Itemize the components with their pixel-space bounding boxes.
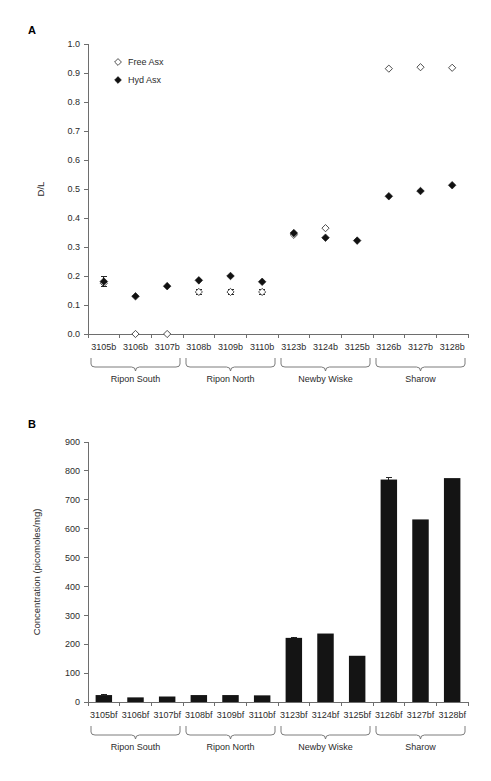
bar: [191, 695, 207, 702]
x-tick-label: 3123bf: [280, 710, 308, 720]
panel-a-chart: 0.00.10.20.30.40.50.60.70.80.91.0D/LFree…: [0, 0, 491, 400]
y-tick-label: 0.5: [67, 184, 80, 194]
y-tick-label: 400: [65, 582, 80, 592]
y-tick-label: 100: [65, 668, 80, 678]
y-tick-label: 0.9: [67, 68, 80, 78]
data-point-free-asx: [132, 330, 139, 337]
x-tick-label: 3124b: [313, 342, 338, 352]
x-tick-label: 3106b: [123, 342, 148, 352]
data-point-free-asx: [385, 65, 392, 72]
bar: [96, 695, 112, 702]
x-tick-label: 3105b: [91, 342, 116, 352]
bar: [381, 480, 397, 702]
panel-b-chart: 0100200300400500600700800900Concentratio…: [0, 400, 491, 781]
y-tick-label: 0.6: [67, 155, 80, 165]
x-tick-label: 3107b: [155, 342, 180, 352]
legend-filled-diamond-icon: [115, 77, 122, 84]
group-bracket: [281, 358, 370, 371]
bar: [349, 656, 365, 702]
group-label: Ripon South: [111, 374, 161, 384]
x-tick-label: 3126b: [376, 342, 401, 352]
y-tick-label: 800: [65, 466, 80, 476]
y-tick-label: 500: [65, 553, 80, 563]
x-tick-label: 3126bf: [375, 710, 403, 720]
group-bracket: [186, 726, 275, 739]
x-tick-label: 3125bf: [343, 710, 371, 720]
x-tick-label: 3127b: [408, 342, 433, 352]
y-tick-label: 1.0: [67, 39, 80, 49]
bar: [444, 478, 460, 702]
x-tick-label: 3107bf: [153, 710, 181, 720]
group-label: Ripon South: [111, 742, 161, 752]
group-bracket: [91, 358, 180, 371]
data-point-hyd-asx: [258, 278, 266, 286]
group-bracket: [376, 726, 465, 739]
y-tick-label: 0.7: [67, 126, 80, 136]
data-point-hyd-asx: [195, 277, 203, 285]
data-point-hyd-asx: [353, 237, 361, 245]
panel-b: B 0100200300400500600700800900Concentrat…: [0, 400, 491, 781]
panel-a-letter: A: [28, 24, 36, 36]
group-label: Ripon North: [206, 742, 254, 752]
bar: [222, 695, 238, 702]
data-point-free-asx: [449, 64, 456, 71]
data-point-hyd-asx: [227, 272, 235, 280]
data-point-hyd-asx: [385, 192, 393, 200]
y-axis-title: Concentration (picomoles/mg): [31, 509, 42, 636]
data-point-free-asx: [322, 225, 329, 232]
data-point-free-asx: [164, 330, 171, 337]
x-tick-label: 3108bf: [185, 710, 213, 720]
y-tick-label: 200: [65, 639, 80, 649]
bar: [127, 697, 143, 702]
group-label: Newby Wiske: [298, 742, 353, 752]
x-tick-label: 3108b: [186, 342, 211, 352]
x-tick-label: 3109bf: [217, 710, 245, 720]
x-tick-label: 3127bf: [407, 710, 435, 720]
y-tick-label: 0.2: [67, 271, 80, 281]
y-tick-label: 0.8: [67, 97, 80, 107]
group-bracket: [91, 726, 180, 739]
x-tick-label: 3110b: [250, 342, 274, 352]
x-tick-label: 3124bf: [312, 710, 340, 720]
data-point-hyd-asx: [132, 293, 140, 301]
data-point-hyd-asx: [417, 187, 425, 195]
y-tick-label: 900: [65, 437, 80, 447]
legend-label-hyd-asx: Hyd Asx: [128, 75, 162, 85]
y-axis-title: D/L: [35, 182, 46, 197]
y-tick-label: 0.3: [67, 242, 80, 252]
legend-label-free-asx: Free Asx: [128, 57, 164, 67]
panel-b-letter: B: [28, 418, 36, 430]
group-bracket: [281, 726, 370, 739]
x-tick-label: 3125b: [345, 342, 370, 352]
figure-container: A 0.00.10.20.30.40.50.60.70.80.91.0D/LFr…: [0, 0, 491, 781]
bar: [286, 638, 302, 702]
data-point-hyd-asx: [448, 181, 456, 189]
group-label: Sharow: [405, 374, 436, 384]
group-label: Ripon North: [206, 374, 254, 384]
bar: [412, 519, 428, 702]
x-tick-label: 3123b: [281, 342, 306, 352]
group-label: Sharow: [405, 742, 436, 752]
y-tick-label: 600: [65, 524, 80, 534]
y-tick-label: 0.1: [67, 300, 80, 310]
x-tick-label: 3110bf: [249, 710, 276, 720]
y-tick-label: 0.4: [67, 213, 80, 223]
x-tick-label: 3109b: [218, 342, 243, 352]
data-point-hyd-asx: [322, 234, 330, 242]
x-tick-label: 3106bf: [122, 710, 150, 720]
x-tick-label: 3128b: [440, 342, 465, 352]
y-tick-label: 0.0: [67, 329, 80, 339]
bar: [317, 634, 333, 702]
group-bracket: [186, 358, 275, 371]
legend-open-diamond-icon: [115, 59, 122, 66]
y-tick-label: 300: [65, 611, 80, 621]
group-bracket: [376, 358, 465, 371]
bar: [254, 695, 270, 702]
data-point-free-asx: [417, 64, 424, 71]
x-tick-label: 3128bf: [438, 710, 466, 720]
x-tick-label: 3105bf: [90, 710, 118, 720]
data-point-hyd-asx: [163, 282, 171, 290]
y-tick-label: 700: [65, 495, 80, 505]
panel-a: A 0.00.10.20.30.40.50.60.70.80.91.0D/LFr…: [0, 0, 491, 400]
group-label: Newby Wiske: [298, 374, 353, 384]
